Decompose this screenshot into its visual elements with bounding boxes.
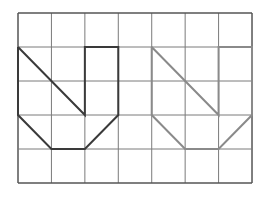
copied-shape [152,47,252,149]
original-shape [18,47,118,149]
grid-lines [18,13,252,183]
grid-diagram [0,0,271,198]
shapes-layer [18,47,252,149]
